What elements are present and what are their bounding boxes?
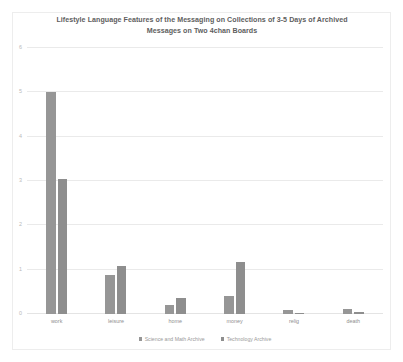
legend-swatch-icon: [139, 337, 143, 341]
bar[interactable]: [236, 262, 246, 314]
plot-area: 0123456 workleisurehomemoneyreligdeath S…: [27, 48, 383, 314]
x-axis-tick-label: home: [169, 318, 183, 324]
y-axis-tick-label: 2: [19, 221, 22, 227]
chart-title-line-2: Messages on Two 4chan Boards: [147, 27, 257, 35]
x-axis-tick-label: work: [51, 318, 62, 324]
chart-title-line-1: Lifestyle Language Features of the Messa…: [56, 16, 347, 24]
chart-legend: Science and Math ArchiveTechnology Archi…: [27, 336, 383, 342]
bar-group: [27, 48, 86, 314]
bar-chart: Lifestyle Language Features of the Messa…: [0, 0, 403, 362]
bar[interactable]: [46, 92, 56, 314]
bar[interactable]: [58, 179, 68, 314]
y-axis-tick-label: 6: [19, 44, 22, 50]
y-axis-tick-label: 3: [19, 177, 22, 183]
bar[interactable]: [343, 309, 353, 314]
x-axis-tick-label: relig: [289, 318, 299, 324]
bar-group: [205, 48, 264, 314]
legend-item[interactable]: Technology Archive: [221, 336, 272, 342]
bar[interactable]: [224, 296, 234, 314]
bar-group: [86, 48, 145, 314]
chart-title: Lifestyle Language Features of the Messa…: [52, 15, 352, 36]
legend-item[interactable]: Science and Math Archive: [139, 336, 205, 342]
x-axis-tick-label: death: [347, 318, 361, 324]
bar[interactable]: [176, 298, 186, 314]
bar[interactable]: [165, 305, 175, 314]
y-axis-tick-label: 4: [19, 133, 22, 139]
y-axis-tick-label: 1: [19, 266, 22, 272]
bar[interactable]: [283, 310, 293, 314]
x-axis-tick-label: leisure: [108, 318, 124, 324]
legend-item-label: Technology Archive: [227, 336, 272, 342]
bar-group: [324, 48, 383, 314]
bar-group: [146, 48, 205, 314]
x-axis-tick-label: money: [227, 318, 243, 324]
y-axis-tick-label: 5: [19, 88, 22, 94]
y-axis-tick-label: 0: [19, 310, 22, 316]
bar[interactable]: [354, 312, 364, 314]
bars-layer: [27, 48, 383, 314]
bar[interactable]: [117, 266, 127, 314]
bar[interactable]: [295, 313, 305, 314]
bar-group: [264, 48, 323, 314]
bar[interactable]: [105, 275, 115, 314]
legend-item-label: Science and Math Archive: [145, 336, 205, 342]
legend-swatch-icon: [221, 337, 225, 341]
